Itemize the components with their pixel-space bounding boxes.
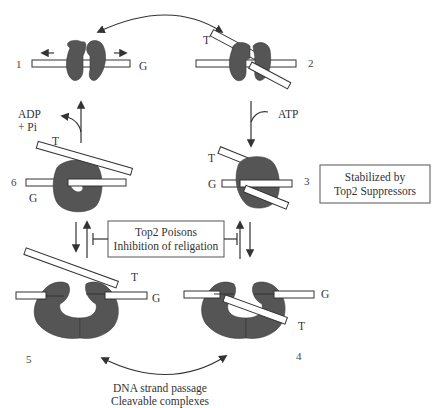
- suppressors-box: Stabilized by Top2 Suppressors: [320, 165, 430, 203]
- g-segment-left: [26, 179, 56, 186]
- suppressors-line1: Stabilized by: [345, 171, 406, 184]
- step-5-t-label: T: [131, 271, 138, 283]
- adp-label-line1: ADP: [18, 108, 41, 120]
- step-6-number: 6: [11, 176, 17, 188]
- g-segment-right-half: [274, 291, 314, 298]
- caption-line2: Cleavable complexes: [111, 395, 210, 408]
- step-5-complex: [16, 248, 147, 339]
- transition-arrow-5-4: [102, 356, 226, 375]
- step-1-complex: [32, 40, 130, 80]
- step-6-t-label: T: [52, 135, 59, 147]
- step-4-number: 4: [296, 350, 302, 362]
- step-4-g-label: G: [321, 288, 329, 300]
- step-1-g-label: G: [139, 60, 147, 72]
- step-4-t-label: T: [298, 320, 305, 332]
- step-3-t-label: T: [208, 152, 215, 164]
- caption-line1: DNA strand passage: [113, 382, 207, 395]
- g-segment-right-half: [105, 292, 147, 299]
- t-segment-dna-released: [24, 248, 118, 288]
- suppressors-line2: Top2 Suppressors: [334, 185, 416, 198]
- step-5-number: 5: [26, 353, 32, 365]
- g-segment-left-half: [16, 292, 46, 299]
- step-6-complex: [26, 141, 132, 211]
- poisons-line1: Top2 Poisons: [135, 226, 198, 239]
- enzyme-left-subunit: [34, 282, 80, 338]
- enzyme-right-subunit: [80, 282, 118, 339]
- step-6-g-label: G: [29, 192, 37, 204]
- adp-branch-arrow: [62, 116, 81, 132]
- poisons-box: Top2 Poisons Inhibition of religation: [108, 221, 224, 257]
- step-4-complex: [184, 282, 314, 339]
- step-2-complex: [196, 30, 296, 89]
- atp-label: ATP: [278, 108, 298, 120]
- top2-cycle-diagram: 1 G T 2 ATP ADP + Pi T G 3 Stabilized by…: [0, 0, 442, 408]
- atp-branch: [251, 112, 268, 122]
- step-3-g-label: G: [208, 178, 216, 190]
- step-3-number: 3: [304, 175, 310, 187]
- enzyme-left-subunit: [202, 282, 246, 338]
- poisons-line2: Inhibition of religation: [114, 240, 219, 253]
- step-2-number: 2: [308, 57, 314, 69]
- g-segment-right: [68, 179, 126, 186]
- step-5-g-label: G: [152, 292, 160, 304]
- step-1-number: 1: [16, 58, 22, 70]
- step-2-t-label: T: [203, 34, 210, 46]
- adp-label-line2: + Pi: [18, 121, 37, 133]
- enzyme-left-subunit: [66, 40, 85, 80]
- step-3-complex: [218, 147, 292, 209]
- transition-arrow-1-2: [98, 15, 222, 32]
